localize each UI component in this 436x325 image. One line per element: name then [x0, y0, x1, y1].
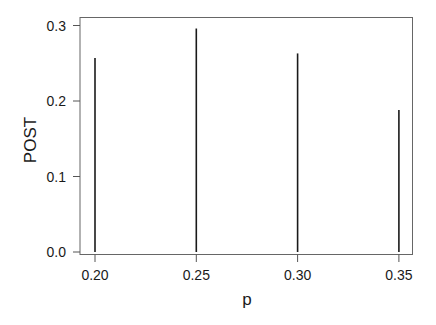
plot-frame	[80, 18, 413, 255]
y-tick-label: 0.1	[47, 169, 67, 185]
y-axis-label: POST	[21, 117, 40, 163]
posterior-spike-plot: 0.00.10.20.3 0.200.250.300.35 p POST	[0, 0, 436, 325]
x-axis-label: p	[242, 290, 251, 309]
x-tick-label: 0.25	[183, 267, 210, 283]
spike-series	[95, 29, 399, 252]
x-axis: 0.200.250.300.35	[81, 255, 412, 284]
y-axis: 0.00.10.20.3	[47, 18, 80, 261]
x-tick-label: 0.20	[81, 267, 108, 283]
x-tick-label: 0.30	[284, 267, 311, 283]
x-tick-label: 0.35	[385, 267, 412, 283]
y-tick-label: 0.0	[47, 244, 67, 260]
y-tick-label: 0.2	[47, 93, 67, 109]
y-tick-label: 0.3	[47, 18, 67, 34]
